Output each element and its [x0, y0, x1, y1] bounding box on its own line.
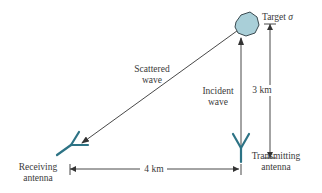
transmitting-antenna-label: Transmitting antenna — [246, 151, 306, 173]
horizontal-distance-label: 4 km — [141, 164, 167, 175]
target-label-text: Target — [262, 12, 286, 22]
incident-wave-label: Incident wave — [198, 86, 238, 108]
scattered-wave-label: Scattered wave — [128, 64, 176, 86]
sigma-symbol: σ — [288, 12, 293, 22]
radar-diagram: Target σ Scattered wave Incident wave 3 … — [0, 0, 322, 193]
target-icon — [235, 12, 259, 36]
receiving-antenna-label: Receiving antenna — [14, 162, 62, 184]
target-label: Target σ — [262, 12, 293, 23]
vertical-distance-label: 3 km — [250, 85, 274, 96]
receiving-antenna-icon — [57, 132, 88, 155]
